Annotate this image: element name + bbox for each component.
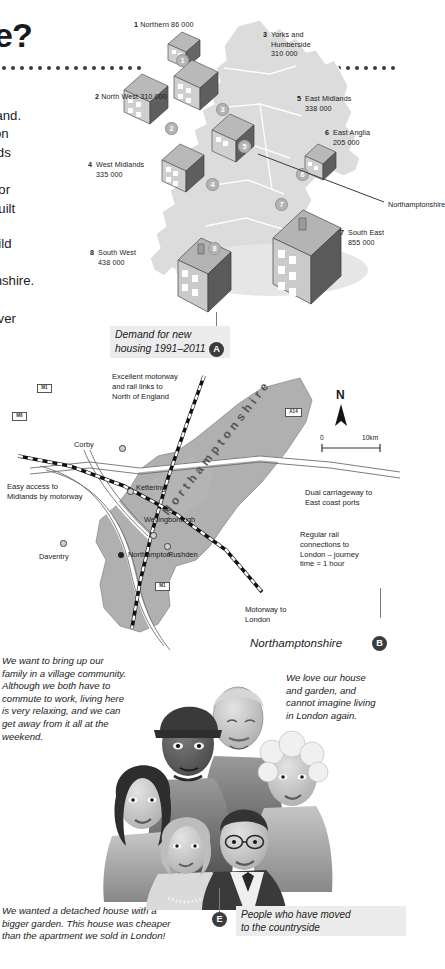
region-label-2: 2 North West 310 000 bbox=[95, 92, 167, 102]
motorway-shield-m1-south: M1 bbox=[155, 582, 170, 591]
region-num-8: 8 bbox=[90, 248, 94, 258]
town-label-northampton: Northampton bbox=[128, 550, 171, 559]
caption-b-leader bbox=[380, 588, 381, 618]
caption-e-badge: E bbox=[212, 912, 227, 927]
region-label-3: 3 Yorks and Humberside 310 000 bbox=[263, 30, 311, 59]
map-marker-1[interactable]: 1 bbox=[176, 54, 189, 67]
people-illustration-graphic bbox=[96, 660, 336, 910]
map-marker-3[interactable]: 3 bbox=[216, 103, 229, 116]
region-num-5: 5 bbox=[297, 94, 301, 104]
region-num-6: 6 bbox=[325, 128, 329, 138]
town-dot-corby[interactable] bbox=[119, 445, 126, 452]
scale-label-zero: 0 bbox=[320, 434, 324, 441]
caption-b-badge: B bbox=[372, 636, 387, 651]
region-label-6: 6 East Anglia 205 000 bbox=[325, 128, 370, 147]
house-icon-8 bbox=[173, 232, 235, 318]
body-paragraph: ched n England. st region Midlands ation… bbox=[0, 88, 108, 218]
region-label-5: 5 East Midlands 338 000 bbox=[297, 94, 351, 113]
caption-a-badge: A bbox=[209, 342, 224, 357]
article-body: ched n England. st region Midlands ation… bbox=[0, 88, 108, 345]
town-dot-kettering[interactable] bbox=[127, 488, 134, 495]
annotation-north-links: Excellent motorway and rail links to Nor… bbox=[112, 372, 178, 401]
town-dot-wellingborough[interactable] bbox=[150, 532, 157, 539]
town-label-rushden: Rushden bbox=[168, 550, 198, 559]
compass-arrow-icon bbox=[332, 404, 350, 428]
house-icon-5 bbox=[208, 110, 258, 166]
people-illustration bbox=[96, 660, 336, 910]
town-dot-northampton[interactable] bbox=[118, 552, 124, 558]
northamptonshire-leader-line bbox=[258, 150, 390, 210]
region-text-2: North West 310 000 bbox=[101, 92, 167, 101]
region-text-4: West Midlands 335 000 bbox=[96, 160, 144, 179]
region-num-1: 1 bbox=[134, 20, 138, 29]
town-label-daventry: Daventry bbox=[39, 552, 69, 561]
figure-older-woman bbox=[254, 731, 332, 892]
region-text-8: South West 438 000 bbox=[98, 248, 136, 267]
region-label-1: 1 Northern 86 000 bbox=[134, 20, 194, 30]
motorway-shield-a14: A14 bbox=[285, 408, 302, 417]
motorway-shield-m1: M1 bbox=[37, 384, 52, 393]
region-num-2: 2 bbox=[95, 92, 99, 101]
annotation-london-motorway: Motorway to London bbox=[245, 605, 286, 625]
region-label-8: 8 South West 438 000 bbox=[90, 248, 136, 267]
region-label-4: 4 West Midlands 335 000 bbox=[88, 160, 144, 179]
region-num-3: 3 bbox=[263, 30, 267, 40]
map-marker-2[interactable]: 2 bbox=[165, 122, 178, 135]
region-text-7: South East 855 000 bbox=[348, 228, 384, 247]
annotation-east-ports: Dual carriageway to East coast ports bbox=[305, 488, 372, 508]
region-text-3: Yorks and Humberside 310 000 bbox=[271, 30, 311, 59]
town-dot-daventry[interactable] bbox=[60, 540, 67, 547]
scale-bar bbox=[320, 444, 384, 452]
town-label-wellingborough: Wellingborough bbox=[144, 515, 195, 524]
caption-b-text: Northamptonshire bbox=[250, 636, 342, 649]
scale-label-max: 10km bbox=[362, 434, 378, 441]
quote-bottom-left: We wanted a detached house with a bigger… bbox=[2, 905, 212, 943]
town-dot-rushden[interactable] bbox=[164, 543, 171, 550]
region-text-1: Northern 86 000 bbox=[140, 20, 193, 29]
northamptonshire-map: Northamptonshire M1 M6 A14 M1 Corby Kett… bbox=[0, 360, 405, 655]
map-marker-8[interactable]: 8 bbox=[208, 242, 221, 255]
region-text-5: East Midlands 338 000 bbox=[305, 94, 351, 113]
northamptonshire-pointer-label: Northamptonshire bbox=[388, 200, 445, 209]
annotation-london-rail: Regular rail connections to London – jou… bbox=[300, 530, 359, 569]
region-label-7: 7 South East 855 000 bbox=[340, 228, 384, 247]
compass-north-label: N bbox=[336, 388, 345, 402]
region-text-6: East Anglia 205 000 bbox=[333, 128, 370, 147]
caption-e-text: People who have moved to the countryside bbox=[236, 906, 406, 936]
region-num-4: 4 bbox=[88, 160, 92, 170]
caption-e-leader bbox=[219, 888, 220, 914]
town-label-kettering: Kettering bbox=[136, 483, 166, 492]
page-title: e? bbox=[0, 18, 32, 52]
motorway-shield-m6: M6 bbox=[12, 412, 27, 421]
house-icon-7 bbox=[267, 204, 347, 314]
annotation-midlands-access: Easy access to Midlands by motorway bbox=[7, 482, 83, 502]
map-marker-4[interactable]: 4 bbox=[206, 178, 219, 191]
region-num-7: 7 bbox=[340, 228, 344, 238]
town-label-corby: Corby bbox=[74, 440, 94, 449]
house-icon-4 bbox=[158, 140, 208, 196]
map-marker-5[interactable]: 5 bbox=[238, 140, 251, 153]
